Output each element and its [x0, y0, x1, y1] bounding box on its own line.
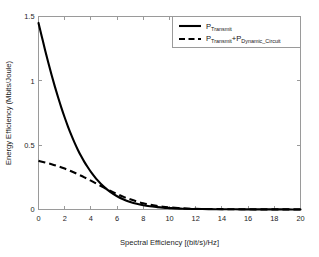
y-axis-title: Energy Efficiency (Mbits/Joule)	[4, 60, 13, 165]
x-tick-label: 20	[296, 214, 304, 223]
x-tick-label: 14	[218, 214, 226, 223]
legend: PTransmit PTransmit+PDynamic_Circuit	[173, 17, 301, 48]
series-p-transmit	[39, 23, 301, 210]
x-axis-title: Spectral Efficiency [(bit/s)/Hz]	[120, 238, 219, 247]
x-tick-label: 16	[244, 214, 252, 223]
x-tick-label: 10	[165, 214, 173, 223]
chart-figure: 02468101214161820 00.511.5 Spectral Effi…	[0, 0, 319, 257]
x-tick-label: 4	[89, 214, 93, 223]
x-tick-label: 0	[36, 214, 40, 223]
series-p-transmit-plus-dynamic-circuit	[39, 161, 301, 210]
x-tick-label: 2	[63, 214, 67, 223]
y-tick-label: 1	[30, 77, 34, 86]
x-tick-label: 6	[115, 214, 119, 223]
x-tick-label: 18	[270, 214, 278, 223]
x-tick-label: 12	[192, 214, 200, 223]
x-tick-label: 8	[141, 214, 145, 223]
y-tick-label: 0	[30, 205, 34, 214]
plot-canvas: 02468101214161820 00.511.5 Spectral Effi…	[0, 0, 319, 257]
y-tick-label: 1.5	[24, 12, 34, 21]
y-tick-label: 0.5	[24, 141, 34, 150]
